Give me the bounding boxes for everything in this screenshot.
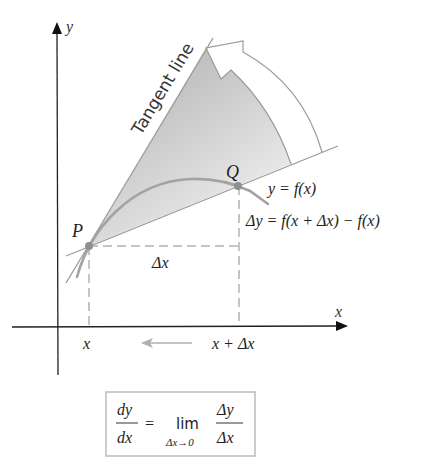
formula-lhs-denominator: dx xyxy=(117,429,132,446)
y-axis-arrow-icon xyxy=(52,22,62,34)
delta-y-label: Δy = f(x + Δx) − f(x) xyxy=(245,212,380,230)
point-p-label: P xyxy=(71,221,83,241)
point-q xyxy=(234,182,242,190)
formula-lim: lim xyxy=(176,415,199,433)
x-axis xyxy=(12,326,337,327)
formula-equals: = xyxy=(145,415,154,432)
x-tick-label: x xyxy=(82,335,90,352)
delta-x-label: Δx xyxy=(151,254,169,271)
x-plus-dx-tick-label: x + Δx xyxy=(211,335,254,352)
x-axis-arrow-icon xyxy=(336,321,348,331)
formula-lhs-numerator: dy xyxy=(117,401,133,419)
x-axis-label: x xyxy=(334,303,342,320)
formula-lim-subscript: Δx→0 xyxy=(165,436,194,448)
derivative-diagram: y x Tangent line P Q y = f(x) Δy = f(x +… xyxy=(0,0,447,474)
y-axis-label: y xyxy=(64,18,74,36)
point-p xyxy=(85,242,93,250)
y-axis xyxy=(57,33,58,375)
formula-rhs-denominator: Δx xyxy=(216,429,234,446)
point-q-label: Q xyxy=(226,162,239,182)
formula-rhs-numerator: Δy xyxy=(216,401,234,419)
curve-label: y = f(x) xyxy=(266,180,316,198)
